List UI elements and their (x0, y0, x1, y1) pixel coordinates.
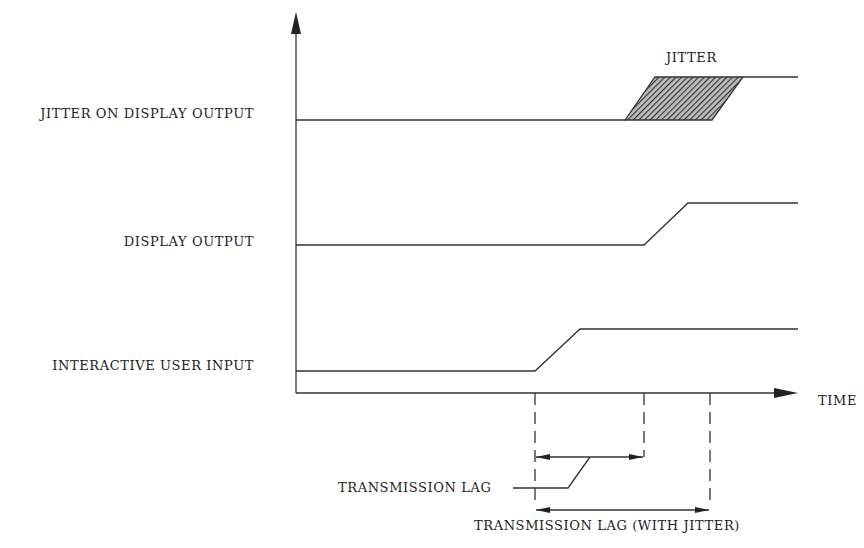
user-input-trace (296, 329, 798, 371)
x-axis: TIME (296, 388, 857, 408)
y-axis (291, 12, 301, 393)
timing-diagram: TIME JITTER ON DISPLAY OUTPUT DISPLAY OU… (0, 0, 864, 548)
signal-label-jitter-display: JITTER ON DISPLAY OUTPUT (38, 106, 254, 121)
x-axis-label: TIME (818, 393, 857, 408)
jitter-display-trace: JITTER (296, 50, 798, 120)
jitter-label: JITTER (664, 50, 717, 65)
signal-label-user-input: INTERACTIVE USER INPUT (52, 358, 254, 373)
transmission-lag-label: TRANSMISSION LAG (338, 480, 491, 495)
transmission-lag-jitter-dimension: TRANSMISSION LAG (WITH JITTER) (474, 510, 740, 533)
jitter-hatch-region (625, 77, 743, 120)
x-axis-arrow-icon (774, 388, 798, 398)
transmission-lag-dimension: TRANSMISSION LAG (338, 457, 643, 495)
display-output-trace (296, 203, 798, 245)
signal-label-display-output: DISPLAY OUTPUT (124, 234, 254, 249)
y-axis-arrow-icon (291, 12, 301, 34)
dashed-markers (535, 393, 710, 500)
transmission-lag-jitter-label: TRANSMISSION LAG (WITH JITTER) (474, 518, 740, 533)
